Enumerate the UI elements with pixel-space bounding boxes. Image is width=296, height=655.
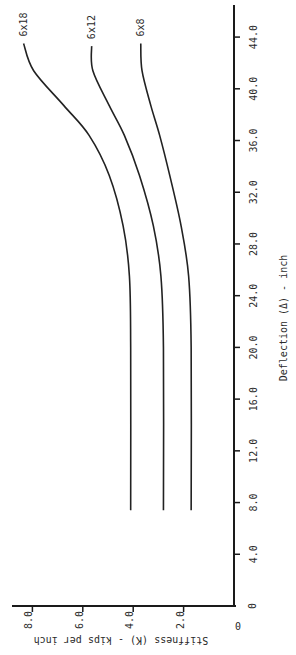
curve-6x12 — [91, 46, 163, 510]
stiffness-tick-label: 0 — [235, 620, 241, 631]
curve-6x18 — [24, 44, 131, 511]
deflection-tick-label: 12.0 — [248, 439, 259, 463]
stiffness-axis-title: Stiffness (K) - kips per inch — [34, 635, 209, 646]
deflection-ticks: 04.08.012.016.020.024.028.032.036.040.04… — [234, 25, 259, 609]
series-labels: 6x186x126x8 — [18, 12, 146, 39]
series-label-6x18: 6x18 — [18, 12, 29, 36]
series-label-6x8: 6x8 — [135, 18, 146, 36]
deflection-tick-label: 24.0 — [248, 284, 259, 308]
stiffness-tick-label: 6.0 — [74, 611, 85, 629]
deflection-tick-label: 20.0 — [248, 335, 259, 359]
stiffness-ticks: 02.04.06.08.0 — [23, 606, 241, 631]
stiffness-deflection-chart: 04.08.012.016.020.024.028.032.036.040.04… — [0, 0, 296, 655]
deflection-tick-label: 28.0 — [248, 232, 259, 256]
stiffness-tick-label: 2.0 — [175, 611, 186, 629]
deflection-tick-label: 44.0 — [248, 25, 259, 49]
deflection-tick-label: 32.0 — [248, 180, 259, 204]
deflection-tick-label: 0 — [247, 603, 258, 609]
deflection-axis-title: Deflection (Δ) - inch — [278, 255, 289, 381]
stiffness-tick-label: 4.0 — [124, 611, 135, 629]
deflection-tick-label: 36.0 — [248, 128, 259, 152]
series-label-6x12: 6x12 — [86, 15, 97, 39]
stiffness-tick-label: 8.0 — [23, 611, 34, 629]
series-curves — [24, 44, 192, 511]
deflection-tick-label: 4.0 — [248, 545, 259, 563]
curve-6x8 — [141, 44, 192, 511]
deflection-tick-label: 16.0 — [248, 387, 259, 411]
deflection-tick-label: 40.0 — [248, 77, 259, 101]
deflection-tick-label: 8.0 — [248, 494, 259, 512]
